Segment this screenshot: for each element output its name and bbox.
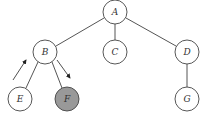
node-g[interactable]: G — [175, 87, 199, 111]
node-d[interactable]: D — [175, 40, 199, 64]
node-label: A — [111, 7, 119, 17]
node-label: G — [183, 94, 190, 104]
node-c[interactable]: C — [103, 40, 127, 64]
edge-b-f — [52, 62, 62, 88]
node-label: E — [16, 94, 24, 104]
node-label: B — [41, 47, 49, 57]
tree-diagram: A B C D E F G — [0, 0, 202, 122]
node-f-highlighted[interactable]: F — [55, 87, 79, 111]
node-label: F — [63, 94, 71, 104]
edge-a-d — [126, 18, 176, 46]
node-label: C — [112, 47, 119, 57]
node-a[interactable]: A — [103, 0, 127, 24]
edge-a-b — [56, 18, 104, 46]
node-e[interactable]: E — [8, 87, 32, 111]
node-label: D — [182, 47, 190, 57]
edge-b-e — [26, 62, 38, 88]
arrow-up-icon — [13, 60, 26, 80]
arrow-down-icon — [57, 60, 70, 78]
node-b[interactable]: B — [33, 40, 57, 64]
